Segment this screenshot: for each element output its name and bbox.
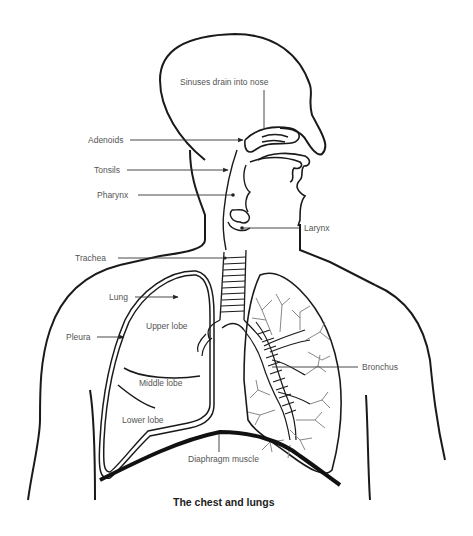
label-pharynx: Pharynx <box>97 191 128 200</box>
left-lung-pleura <box>99 271 214 478</box>
diagram-caption: The chest and lungs <box>173 497 275 508</box>
chest-and-lungs-diagram: Sinuses drain into nose Adenoids Tonsils… <box>0 0 473 536</box>
label-tonsils: Tonsils <box>94 166 120 175</box>
label-larynx: Larynx <box>304 224 330 233</box>
head-outline <box>160 34 325 160</box>
label-lung: Lung <box>109 293 128 302</box>
trachea <box>208 250 262 340</box>
label-adenoids: Adenoids <box>88 136 123 145</box>
leader-lines <box>97 90 358 452</box>
label-sinuses: Sinuses drain into nose <box>180 78 268 87</box>
label-trachea: Trachea <box>75 254 106 263</box>
torso-outline <box>28 265 445 500</box>
face-interior <box>245 127 310 226</box>
pharynx-airway <box>223 150 250 250</box>
label-pleura: Pleura <box>66 333 91 342</box>
label-diaphragm: Diaphragm muscle <box>188 455 259 464</box>
label-bronchus: Bronchus <box>362 363 398 372</box>
label-upper-lobe: Upper lobe <box>146 322 188 331</box>
label-middle-lobe: Middle lobe <box>139 379 182 388</box>
label-lower-lobe: Lower lobe <box>122 416 164 425</box>
